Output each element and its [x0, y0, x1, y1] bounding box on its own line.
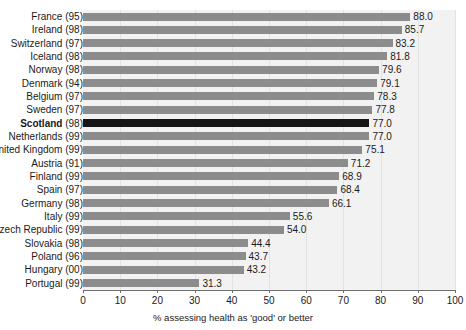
bar-value-label: 79.6: [379, 63, 401, 77]
table-row: Italy (99)55.6: [0, 210, 466, 224]
country-name: Belgium: [26, 91, 62, 102]
tick-mark: [232, 290, 233, 293]
bar: [83, 199, 329, 207]
bar-category-label: Ireland (98): [32, 23, 83, 37]
bar-category-label: Portugal (99): [25, 277, 83, 291]
bar-value-label: 43.2: [244, 263, 266, 277]
bar: [83, 52, 387, 60]
country-name: Germany: [21, 198, 62, 209]
bar: [83, 39, 393, 47]
bar-value-label: 55.6: [290, 210, 312, 224]
bar-value-label: 68.4: [337, 183, 359, 197]
bar: [83, 26, 402, 34]
bar-category-label: Denmark (94): [22, 77, 83, 91]
table-row: Czech Republic (99)54.0: [0, 223, 466, 237]
bar-value-label: 44.4: [248, 237, 270, 251]
bar: [83, 279, 199, 287]
x-tick-label: 0: [68, 295, 98, 306]
country-name: France: [31, 11, 62, 22]
country-name: Austria: [31, 158, 62, 169]
table-row: Switzerland (97)83.2: [0, 37, 466, 51]
bar-category-label: Finland (99): [30, 170, 83, 184]
bar: [83, 239, 248, 247]
bar-category-label: Iceland (98): [30, 50, 83, 64]
country-name: United Kingdom: [0, 144, 62, 155]
bar-category-label: Slovakia (98): [25, 237, 83, 251]
bar-chart: France (95)88.0Ireland (98)85.7Switzerla…: [0, 0, 466, 330]
bar-category-label: Sweden (97): [26, 103, 83, 117]
bar-value-label: 31.3: [199, 277, 221, 291]
survey-year: (94): [65, 78, 83, 89]
tick-mark: [455, 290, 456, 293]
bar: [83, 66, 379, 74]
survey-year: (99): [65, 131, 83, 142]
table-row: Finland (99)68.9: [0, 170, 466, 184]
country-name: Poland: [31, 251, 62, 262]
bar-category-label: United Kingdom (99): [0, 143, 83, 157]
survey-year: (97): [65, 91, 83, 102]
survey-year: (95): [65, 11, 83, 22]
bar: [83, 13, 410, 21]
survey-year: (99): [65, 278, 83, 289]
table-row: Ireland (98)85.7: [0, 23, 466, 37]
bar-value-label: 75.1: [362, 143, 384, 157]
bar: [83, 92, 374, 100]
table-row: Austria (91)71.2: [0, 157, 466, 171]
tick-mark: [83, 290, 84, 293]
bar: [83, 252, 246, 260]
x-tick-label: 60: [291, 295, 321, 306]
bar-category-label: Hungary (00): [25, 263, 83, 277]
x-tick-label: 80: [366, 295, 396, 306]
bar-category-label: Scotland (98): [20, 117, 83, 131]
survey-year: (99): [65, 224, 83, 235]
bar-value-label: 71.2: [348, 157, 370, 171]
bar-value-label: 43.7: [246, 250, 268, 264]
survey-year: (97): [65, 184, 83, 195]
bar: [83, 212, 290, 220]
x-tick-label: 70: [328, 295, 358, 306]
bar-value-label: 85.7: [402, 23, 424, 37]
country-name: Iceland: [30, 51, 62, 62]
table-row: Poland (96)43.7: [0, 250, 466, 264]
bar-category-label: Austria (91): [31, 157, 83, 171]
bar: [83, 226, 284, 234]
bar-value-label: 66.1: [329, 197, 351, 211]
bar: [83, 266, 244, 274]
x-tick-label: 100: [440, 295, 466, 306]
table-row: Slovakia (98)44.4: [0, 237, 466, 251]
x-tick-label: 40: [217, 295, 247, 306]
tick-mark: [381, 290, 382, 293]
survey-year: (00): [65, 264, 83, 275]
bar-category-label: Netherlands (99): [9, 130, 84, 144]
tick-mark: [195, 290, 196, 293]
bar-value-label: 79.1: [377, 77, 399, 91]
survey-year: (91): [65, 158, 83, 169]
country-name: Portugal: [25, 278, 62, 289]
survey-year: (98): [65, 51, 83, 62]
survey-year: (99): [65, 211, 83, 222]
country-name: Ireland: [32, 24, 63, 35]
table-row: Norway (98)79.6: [0, 63, 466, 77]
bar-value-label: 88.0: [410, 10, 432, 24]
table-row: Germany (98)66.1: [0, 197, 466, 211]
country-name: Denmark: [22, 78, 63, 89]
country-name: Netherlands: [9, 131, 63, 142]
country-name: Switzerland: [11, 38, 63, 49]
bar-rows: France (95)88.0Ireland (98)85.7Switzerla…: [0, 10, 466, 290]
bar: [83, 79, 377, 87]
x-axis-title: % assessing health as 'good' or better: [0, 312, 466, 323]
table-row: Sweden (97)77.8: [0, 103, 466, 117]
tick-mark: [306, 290, 307, 293]
bar-category-label: Belgium (97): [26, 90, 83, 104]
table-row: Scotland (98)77.0: [0, 117, 466, 131]
tick-mark: [343, 290, 344, 293]
bar-category-label: Czech Republic (99): [0, 223, 83, 237]
bar-value-label: 68.9: [339, 170, 361, 184]
bar-value-label: 77.0: [369, 117, 391, 131]
tick-mark: [418, 290, 419, 293]
country-name: Scotland: [20, 118, 62, 129]
country-name: Norway: [29, 64, 63, 75]
survey-year: (99): [65, 144, 83, 155]
bar-category-label: Poland (96): [31, 250, 83, 264]
country-name: Spain: [37, 184, 63, 195]
